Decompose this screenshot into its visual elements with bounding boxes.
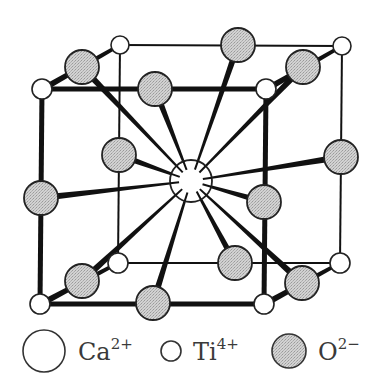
titanium-atom-front-bottom-left [30, 294, 50, 314]
oxygen-atom-left-back [102, 138, 136, 172]
oxygen-atom-top-left [65, 50, 99, 84]
oxygen-atom-top-front [138, 72, 172, 106]
titanium-atom-back-bottom-right [330, 253, 350, 273]
bond-stub-o-right-back [203, 178, 212, 179]
perovskite-unit-cell-diagram: Ca2+Ti4+O2− [0, 0, 388, 388]
legend-titanium-charge: 4+ [217, 335, 239, 353]
titanium-atom-front-bottom-right [254, 294, 274, 314]
legend-oxygen-symbol [272, 334, 306, 368]
bond-o-left-front [41, 180, 192, 201]
oxygen-atom-bottom-front [136, 286, 170, 320]
oxygen-atom-bottom-back [218, 246, 252, 280]
titanium-atom-front-top-right [256, 79, 276, 99]
bond-o-top-left [80, 65, 192, 182]
titanium-atom-front-top-left [32, 79, 52, 99]
legend-titanium-symbol [161, 341, 181, 361]
legend: Ca2+Ti4+O2− [23, 330, 360, 372]
oxygen-atom-right-front [247, 185, 281, 219]
titanium-atom-back-top-right [333, 37, 351, 55]
titanium-atom-back-top-left [111, 36, 129, 54]
legend-calcium-symbol [23, 330, 65, 372]
titanium-atom-back-bottom-left [108, 253, 128, 273]
oxygen-atom-top-right [286, 50, 320, 84]
oxygen-atom-bottom-left [65, 264, 99, 298]
oxygen-atom-top-back [221, 28, 255, 62]
legend-calcium-charge: 2+ [111, 335, 133, 353]
legend-oxygen-charge: 2− [338, 335, 360, 353]
oxygen-atom-left-front [24, 181, 58, 215]
legend-calcium-label: Ca2+ [78, 335, 133, 366]
legend-oxygen-label: O2− [318, 335, 360, 366]
legend-titanium-label: Ti4+ [193, 335, 239, 366]
bond-stub-o-left-front [170, 182, 179, 183]
atoms-layer [24, 28, 358, 320]
oxygen-atom-right-back [324, 140, 358, 174]
oxygen-atom-bottom-right [285, 266, 319, 300]
